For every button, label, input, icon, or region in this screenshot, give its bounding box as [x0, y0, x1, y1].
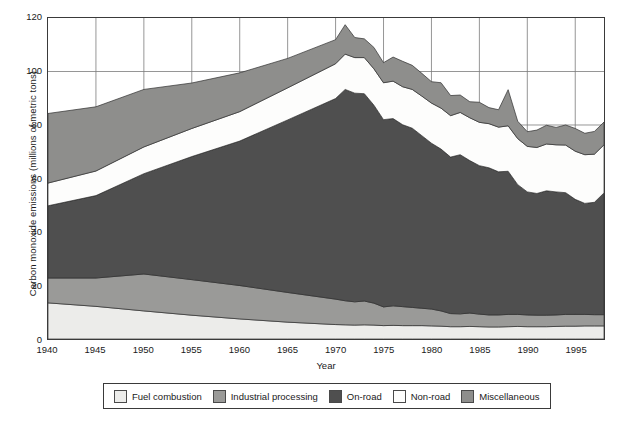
legend-label: On-road: [347, 391, 382, 402]
legend-label: Non-road: [411, 391, 451, 402]
y-tick-label: 80: [16, 120, 42, 130]
legend-swatch-icon: [213, 390, 226, 403]
x-tick-label: 1950: [121, 344, 165, 355]
x-tick-label: 1955: [169, 344, 213, 355]
y-tick-label: 20: [16, 281, 42, 291]
legend-item[interactable]: Fuel combustion: [114, 390, 202, 403]
x-tick-label: 1970: [314, 344, 358, 355]
legend-label: Miscellaneous: [479, 391, 539, 402]
legend-item[interactable]: Miscellaneous: [461, 390, 539, 403]
x-tick-label: 1940: [25, 344, 69, 355]
legend-swatch-icon: [114, 390, 127, 403]
y-tick-label: 100: [16, 66, 42, 76]
y-tick-label: 40: [16, 227, 42, 237]
x-tick-label: 1980: [410, 344, 454, 355]
x-tick-label: 1960: [217, 344, 261, 355]
y-axis-ticks: 020406080100120: [12, 0, 42, 421]
x-tick-label: 1965: [266, 344, 310, 355]
chart-figure: Carbon monoxide emissions (millions of m…: [0, 0, 625, 421]
legend-item[interactable]: Non-road: [393, 390, 451, 403]
legend-swatch-icon: [461, 390, 474, 403]
x-tick-label: 1985: [458, 344, 502, 355]
plot-area: [47, 17, 605, 340]
x-tick-label: 1995: [554, 344, 598, 355]
legend-item[interactable]: On-road: [329, 390, 382, 403]
legend-label: Fuel combustion: [132, 391, 202, 402]
legend-swatch-icon: [393, 390, 406, 403]
legend-item[interactable]: Industrial processing: [213, 390, 318, 403]
legend-swatch-icon: [329, 390, 342, 403]
x-tick-label: 1945: [73, 344, 117, 355]
chart-legend: Fuel combustionIndustrial processingOn-r…: [103, 383, 551, 409]
x-tick-label: 1990: [506, 344, 550, 355]
x-axis-label: Year: [47, 360, 605, 371]
legend-label: Industrial processing: [231, 391, 318, 402]
y-tick-label: 120: [16, 12, 42, 22]
y-tick-label: 60: [16, 174, 42, 184]
stacked-area-chart: [48, 18, 604, 339]
x-tick-label: 1975: [362, 344, 406, 355]
